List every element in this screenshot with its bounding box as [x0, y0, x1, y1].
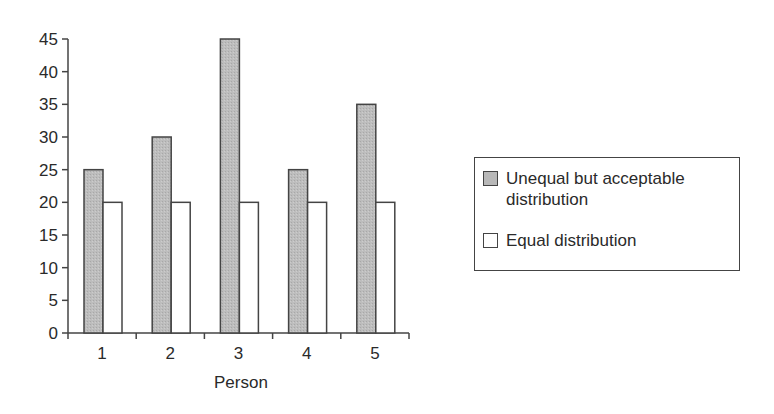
x-tick-label: 2 — [166, 344, 175, 363]
bar-equal — [308, 202, 327, 333]
bar-unequal — [220, 39, 239, 333]
legend-label-unequal: Unequal but acceptable distribution — [506, 168, 731, 210]
legend-label-equal: Equal distribution — [506, 230, 731, 251]
x-axis: 12345 — [68, 333, 409, 363]
bar-equal — [103, 202, 122, 333]
bar-equal — [171, 202, 190, 333]
y-tick-label: 35 — [39, 95, 58, 114]
legend: Unequal but acceptable distribution Equa… — [474, 157, 740, 271]
bar-unequal — [152, 137, 171, 333]
bar-unequal — [84, 170, 103, 333]
y-tick-label: 15 — [39, 226, 58, 245]
y-tick-label: 20 — [39, 193, 58, 212]
y-tick-label: 25 — [39, 161, 58, 180]
bar-unequal — [357, 104, 376, 333]
x-axis-title: Person — [214, 373, 268, 393]
y-tick-label: 10 — [39, 259, 58, 278]
bars — [84, 39, 395, 333]
legend-item-unequal: Unequal but acceptable distribution — [483, 168, 731, 210]
bar-equal — [376, 202, 395, 333]
x-tick-label: 1 — [97, 344, 106, 363]
bar-equal — [239, 202, 258, 333]
legend-item-equal: Equal distribution — [483, 230, 731, 251]
y-tick-label: 40 — [39, 63, 58, 82]
y-axis: 051015202530354045 — [39, 30, 68, 343]
legend-swatch-equal — [483, 233, 498, 248]
x-tick-label: 4 — [302, 344, 311, 363]
bar-unequal — [289, 170, 308, 333]
y-tick-label: 45 — [39, 30, 58, 49]
x-tick-label: 3 — [234, 344, 243, 363]
y-tick-label: 30 — [39, 128, 58, 147]
y-tick-label: 0 — [49, 324, 58, 343]
x-tick-label: 5 — [370, 344, 379, 363]
y-tick-label: 5 — [49, 291, 58, 310]
legend-swatch-unequal — [483, 171, 498, 186]
